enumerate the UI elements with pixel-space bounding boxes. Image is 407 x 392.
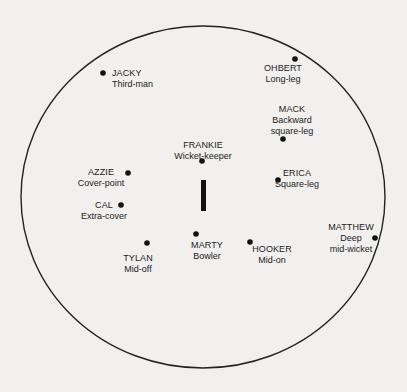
fielder-position-line-1: Deep [328, 233, 374, 244]
fielder-label-hooker: HOOKER Mid-on [252, 244, 292, 266]
fielder-dot-mack [280, 136, 286, 142]
fielder-position: Mid-on [252, 255, 292, 266]
fielder-dot-ohbert [292, 56, 298, 62]
fielder-name: CAL [81, 200, 127, 211]
fielder-label-ohbert: OHBERT Long-leg [264, 63, 302, 85]
fielder-position-line-2: square-leg [271, 126, 314, 137]
fielder-position: Third-man [112, 79, 153, 90]
fielder-name: MARTY [191, 240, 223, 251]
fielder-position-line-1: Backward [271, 115, 314, 126]
fielder-position: Square-leg [275, 179, 319, 190]
fielder-dot-jacky [100, 70, 106, 76]
fielder-label-jacky: JACKY Third-man [112, 68, 153, 90]
fielder-name: FRANKIE [174, 140, 232, 151]
fielder-label-matthew: MATTHEW Deep mid-wicket [328, 222, 374, 255]
fielder-dot-tylan [144, 240, 150, 246]
wicket-pitch [201, 180, 206, 211]
cricket-field-diagram [0, 0, 407, 392]
fielder-name: AZZIE [78, 167, 125, 178]
fielder-label-marty: MARTY Bowler [191, 240, 223, 262]
fielder-name: TYLAN [123, 253, 153, 264]
fielder-label-frankie: FRANKIE Wicket-keeper [174, 140, 232, 162]
fielder-position: Cover-point [78, 178, 125, 189]
fielder-label-erica: ERICA Square-leg [275, 168, 319, 190]
fielder-position-line-2: mid-wicket [328, 244, 374, 255]
fielder-dot-marty [193, 231, 199, 237]
fielder-label-cal: CAL Extra-cover [81, 200, 127, 222]
fielder-name: OHBERT [264, 63, 302, 74]
fielder-position: Extra-cover [81, 211, 127, 222]
fielder-label-tylan: TYLAN Mid-off [123, 253, 153, 275]
fielder-dot-azzie [125, 170, 131, 176]
fielder-name: HOOKER [252, 244, 292, 255]
fielder-name: MACK [271, 104, 314, 115]
fielder-position: Wicket-keeper [174, 151, 232, 162]
fielder-name: JACKY [112, 68, 153, 79]
fielder-position: Long-leg [264, 74, 302, 85]
fielder-label-azzie: AZZIE Cover-point [78, 167, 125, 189]
fielder-position: Bowler [191, 251, 223, 262]
fielder-name: ERICA [275, 168, 319, 179]
fielder-label-mack: MACK Backward square-leg [271, 104, 314, 137]
fielder-position: Mid-off [123, 264, 153, 275]
fielder-name: MATTHEW [328, 222, 374, 233]
